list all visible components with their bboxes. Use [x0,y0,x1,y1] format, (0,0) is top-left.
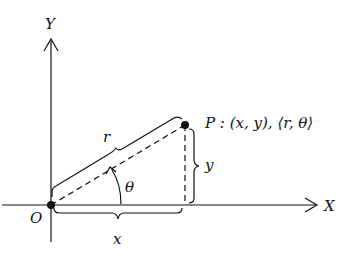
point-p [181,121,189,129]
polar-coordinates-diagram: Y X O P : (x, y), ⟨r, θ⟩ r y x θ [0,0,359,256]
r-brace [52,117,182,197]
theta-label: θ [125,180,134,195]
y-brace [189,129,199,203]
theta-arrowhead [106,167,116,174]
y-segment-label: y [205,158,213,173]
y-axis-label: Y [45,17,55,32]
x-segment-label: x [113,232,121,247]
theta-arc [112,170,121,204]
x-axis-label: X [324,199,335,214]
origin-label: O [30,211,42,226]
radius-line [51,125,185,205]
x-brace [54,208,182,219]
origin-point [47,201,55,209]
point-p-label: P : (x, y), ⟨r, θ⟩ [205,116,313,131]
r-label: r [103,130,110,145]
